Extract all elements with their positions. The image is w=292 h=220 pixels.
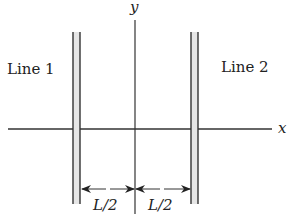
y-axis-label: y <box>130 0 138 16</box>
x-axis-label: x <box>278 119 286 137</box>
line-2-conductor <box>191 32 198 204</box>
line-1-conductor <box>73 32 80 204</box>
dimension-left-label: L/2 <box>93 196 118 214</box>
dimension-right-label: L/2 <box>148 196 173 214</box>
line-2-label: Line 2 <box>221 58 269 76</box>
diagram-canvas <box>0 0 292 220</box>
line-1-label: Line 1 <box>7 60 55 78</box>
